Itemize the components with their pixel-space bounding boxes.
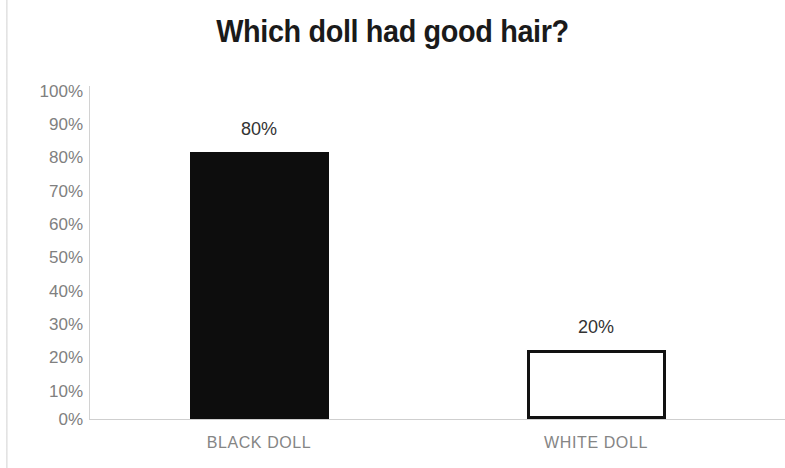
category-label-black-doll: BLACK DOLL — [207, 434, 312, 452]
y-tick-label: 70% — [1, 183, 83, 200]
y-tick-label: 60% — [1, 216, 83, 233]
data-label-white-doll: 20% — [578, 317, 614, 338]
y-tick-label: 100% — [1, 83, 83, 100]
y-axis-line — [89, 86, 90, 420]
chart-screenshot: Which doll had good hair? 100% 90% 80% 7… — [0, 0, 785, 468]
y-tick-label: 20% — [1, 349, 83, 366]
y-tick-label: 30% — [1, 316, 83, 333]
data-label-black-doll: 80% — [241, 119, 277, 140]
bar-white-doll — [527, 350, 666, 419]
y-axis-tick-labels: 100% 90% 80% 70% 60% 50% 40% 30% 20% 10%… — [0, 0, 83, 468]
category-label-white-doll: WHITE DOLL — [544, 434, 648, 452]
bar-black-doll — [190, 152, 329, 419]
y-tick-label: 90% — [1, 116, 83, 133]
y-tick-label: 40% — [1, 283, 83, 300]
y-tick-label: 80% — [1, 149, 83, 166]
chart-title: Which doll had good hair? — [27, 14, 757, 50]
y-tick-label: 10% — [1, 383, 83, 400]
x-axis-line — [89, 419, 785, 420]
y-tick-label: 0% — [1, 411, 83, 428]
y-tick-label: 50% — [1, 249, 83, 266]
